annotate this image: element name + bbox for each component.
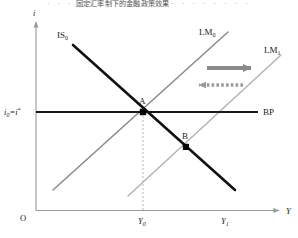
x-tick-y1: Y1 bbox=[221, 216, 229, 227]
is0-label: IS0 bbox=[57, 30, 68, 41]
x-tick-y0-sub: 0 bbox=[143, 221, 146, 227]
lm0-label-sub: 0 bbox=[213, 32, 216, 38]
point-b-marker bbox=[183, 144, 189, 150]
y-axis-label: i bbox=[33, 8, 36, 18]
point-a-marker bbox=[140, 109, 146, 115]
curves-group bbox=[36, 32, 281, 196]
isl-lm-bp-figure: · · · 固定汇率制下的金融政策效果 · · · · · · · · bbox=[0, 0, 298, 238]
y-tick-interest-rate: i0=i* bbox=[4, 107, 21, 118]
axes-group bbox=[36, 22, 279, 211]
origin-label: O bbox=[20, 213, 26, 223]
bp-label: BP bbox=[263, 107, 274, 117]
labels-group: IS0 LM0 LM1 BP A B O Y i Y0 Y1 i0=i* bbox=[4, 8, 292, 227]
lm1-curve bbox=[128, 55, 281, 196]
shift-arrows-group bbox=[199, 68, 251, 85]
lm1-label-text: LM bbox=[264, 45, 278, 55]
x-tick-y0: Y0 bbox=[138, 216, 146, 227]
y-tick-istar-sup: * bbox=[18, 107, 21, 113]
is0-label-sub: 0 bbox=[65, 35, 68, 41]
point-b-label: B bbox=[182, 131, 188, 141]
lm1-label-sub: 1 bbox=[278, 50, 281, 56]
x-axis-label: Y bbox=[286, 206, 292, 216]
point-a-label: A bbox=[139, 96, 146, 106]
lm0-label: LM0 bbox=[199, 27, 216, 38]
lm1-label: LM1 bbox=[264, 45, 281, 56]
is0-label-text: IS bbox=[57, 30, 65, 40]
x-tick-y1-sub: 1 bbox=[226, 221, 229, 227]
is-lm-bp-chart: IS0 LM0 LM1 BP A B O Y i Y0 Y1 i0=i* bbox=[0, 0, 298, 238]
lm0-label-text: LM bbox=[199, 27, 213, 37]
